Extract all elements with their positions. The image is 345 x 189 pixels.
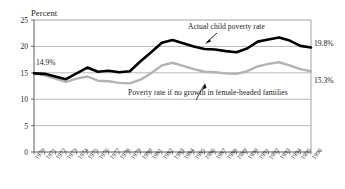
end-value-label-actual: 19.8% (314, 39, 334, 48)
y-tick-label-25: 25 (12, 16, 28, 25)
start-value-label-actual: 14.9% (36, 58, 56, 67)
annotation-actual-series: Actual child poverty rate (188, 22, 265, 31)
y-tick-label-20: 20 (12, 42, 28, 51)
y-tick-label-15: 15 (12, 69, 28, 78)
y-axis-title: Percent (31, 8, 57, 18)
poverty-rate-line-chart: Percent 25 20 15 10 5 0 1970197119721973… (0, 0, 345, 189)
y-tick-label-0: 0 (12, 148, 28, 157)
data-series-layer (34, 37, 311, 83)
annotation-counterfactual-series: Poverty rate if no growth in female-head… (128, 88, 288, 97)
gridlines (34, 46, 311, 125)
y-tick-label-10: 10 (12, 95, 28, 104)
end-value-label-counterfactual: 15.3% (314, 76, 334, 85)
y-tick-label-5: 5 (12, 122, 28, 131)
